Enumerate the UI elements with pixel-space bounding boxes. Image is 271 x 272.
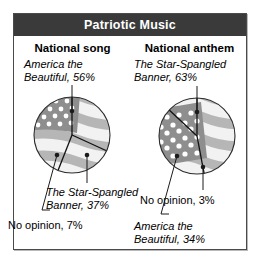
callout-line-1: The Star-Spangled (134, 58, 226, 71)
panel-national-song: National song America the Beautiful, 56%… (14, 38, 131, 250)
pie-chart-national-anthem (151, 86, 243, 186)
callout-line-1: America the (24, 58, 95, 71)
callout-no-opinion-3: No opinion, 3% (140, 194, 215, 207)
panel-heading-national-anthem: National anthem (131, 42, 248, 54)
callout-line-2: Banner, 63% (134, 71, 226, 84)
callout-no-opinion-7: No opinion, 7% (8, 219, 83, 232)
panel-heading-national-song: National song (14, 42, 131, 54)
callout-line-1: America the (134, 220, 205, 233)
pie-chart-national-song (19, 85, 125, 185)
callout-star-spangled-37: The Star-Spangled Banner, 37% (46, 186, 138, 211)
callout-star-spangled-63: The Star-Spangled Banner, 63% (134, 58, 226, 83)
callout-line-1: The Star-Spangled (46, 186, 138, 199)
figure-title-bar: Patriotic Music (14, 14, 246, 36)
callout-line-2: Beautiful, 56% (24, 71, 95, 84)
callout-line-2: Beautiful, 34% (134, 233, 205, 246)
callout-america-beautiful-56: America the Beautiful, 56% (24, 58, 95, 83)
figure-title: Patriotic Music (84, 18, 176, 32)
panel-national-anthem: National anthem The Star-Spangled Banner… (131, 38, 248, 250)
callout-america-beautiful-34: America the Beautiful, 34% (134, 220, 205, 245)
callout-line-2: Banner, 37% (46, 199, 138, 212)
figure-container: Patriotic Music National song America th… (13, 13, 247, 250)
